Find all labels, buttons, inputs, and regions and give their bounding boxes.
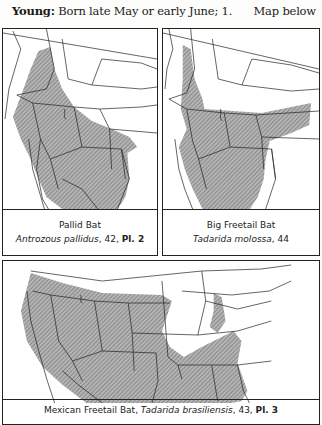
caption-line: Mexican Freetail Bat, Tadarida brasilien…: [3, 403, 319, 417]
plate-ref: Pl. 3: [256, 405, 279, 415]
map-caption: Pallid Bat Antrozous pallidus, 42, Pl. 2: [3, 209, 157, 255]
scientific-name: Tadarida brasiliensis: [141, 405, 233, 415]
map-panel-pallid-bat: Pallid Bat Antrozous pallidus, 42, Pl. 2: [2, 28, 158, 256]
plate-ref: Pl. 2: [122, 234, 145, 244]
young-label: Young:: [12, 4, 55, 18]
common-name: Big Freetail Bat: [163, 218, 319, 232]
scientific-line: Antrozous pallidus, 42, Pl. 2: [3, 232, 157, 246]
range-map-big-freetail-bat: [163, 29, 319, 209]
range-map-mexican-freetail-bat: [3, 261, 319, 403]
page-ref: , 44: [272, 234, 289, 244]
scientific-name: Tadarida molossa: [193, 234, 272, 244]
page-ref: , 42,: [99, 234, 122, 244]
scientific-name: Antrozous pallidus: [16, 234, 99, 244]
common-name: Mexican Freetail Bat: [44, 405, 135, 415]
map-caption: Big Freetail Bat Tadarida molossa, 44: [163, 209, 319, 255]
map-caption: Mexican Freetail Bat, Tadarida brasilien…: [3, 399, 319, 420]
range-map-pallid-bat: [3, 29, 157, 209]
page-ref: , 43,: [233, 405, 256, 415]
map-below-note: Map below: [254, 4, 316, 18]
young-text: Born late May or early June; 1.: [58, 4, 232, 18]
common-name: Pallid Bat: [3, 218, 157, 232]
map-panel-big-freetail-bat: Big Freetail Bat Tadarida molossa, 44: [162, 28, 320, 256]
map-panel-mexican-freetail-bat: Mexican Freetail Bat, Tadarida brasilien…: [2, 260, 320, 425]
scientific-line: Tadarida molossa, 44: [163, 232, 319, 246]
text-line: Young: Born late May or early June; 1. M…: [12, 4, 316, 18]
